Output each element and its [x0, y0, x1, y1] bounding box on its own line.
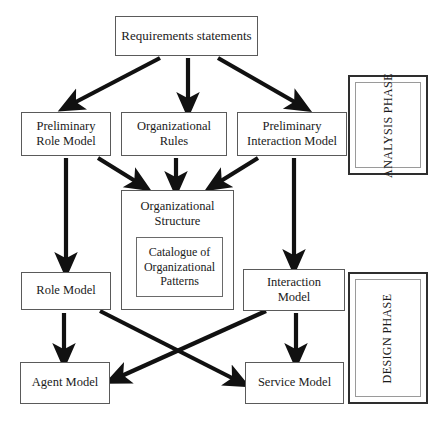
edge-interaction-model-to-agent-model	[117, 311, 266, 378]
node-label-line2: Structure	[155, 214, 201, 228]
node-organizational-rules[interactable]: Organizational Rules	[121, 112, 227, 156]
node-organizational-structure[interactable]: Organizational Structure Catalogue of Or…	[121, 190, 234, 310]
phase-label-design: DESIGN PHASE	[381, 293, 396, 383]
node-label: Requirements statements	[118, 28, 254, 44]
node-catalogue-of-organizational-patterns[interactable]: Catalogue of Organizational Patterns	[136, 237, 223, 297]
node-label-line1: Interaction	[267, 275, 321, 289]
node-label-line2: Interaction Model	[247, 134, 337, 148]
edge-role-model-to-service-model	[100, 311, 238, 381]
node-label-line1: Organizational	[140, 199, 214, 213]
node-label-line1: Organizational	[137, 119, 211, 133]
node-label-line1: Preliminary	[262, 119, 321, 133]
edge-preliminary-interaction-model-to-organizational-structure	[216, 158, 258, 184]
node-label: Preliminary Role Model	[33, 119, 98, 150]
phase-label-analysis: ANALYSIS PHASE	[381, 73, 396, 178]
edge-requirements-to-preliminary-interaction-model	[218, 58, 300, 105]
edge-preliminary-role-model-to-organizational-structure	[98, 158, 140, 184]
edge-requirements-to-preliminary-role-model	[70, 58, 160, 105]
phase-panel-inner-border: ANALYSIS PHASE	[355, 82, 421, 168]
node-label: Role Model	[33, 283, 98, 298]
node-label-line2: Organizational	[144, 260, 215, 274]
node-label-line2: Rules	[160, 134, 188, 148]
node-label: Interaction Model	[264, 275, 324, 306]
node-agent-model[interactable]: Agent Model	[20, 362, 110, 404]
node-label-line2: Role Model	[36, 134, 95, 148]
phase-panel-design: DESIGN PHASE	[348, 272, 428, 404]
node-label: Catalogue of Organizational Patterns	[141, 245, 218, 288]
node-label: Organizational Rules	[134, 119, 214, 150]
node-preliminary-role-model[interactable]: Preliminary Role Model	[21, 112, 111, 156]
node-preliminary-interaction-model[interactable]: Preliminary Interaction Model	[237, 112, 347, 156]
node-label-line1: Preliminary	[36, 119, 95, 133]
node-label-line1: Catalogue of	[149, 245, 211, 259]
node-role-model[interactable]: Role Model	[21, 272, 111, 310]
phase-panel-inner-border: DESIGN PHASE	[355, 279, 421, 397]
diagram-canvas: Requirements statements Preliminary Role…	[0, 0, 434, 424]
node-label-line3: Patterns	[160, 274, 199, 288]
node-service-model[interactable]: Service Model	[245, 362, 344, 404]
node-label: Agent Model	[29, 375, 101, 390]
node-requirements-statements[interactable]: Requirements statements	[115, 16, 258, 56]
phase-panel-analysis: ANALYSIS PHASE	[348, 75, 428, 175]
node-label: Service Model	[255, 375, 334, 390]
node-label-line2: Model	[278, 290, 311, 304]
node-interaction-model[interactable]: Interaction Model	[243, 269, 345, 311]
node-label: Organizational Structure	[122, 199, 233, 230]
node-label: Preliminary Interaction Model	[244, 119, 340, 150]
